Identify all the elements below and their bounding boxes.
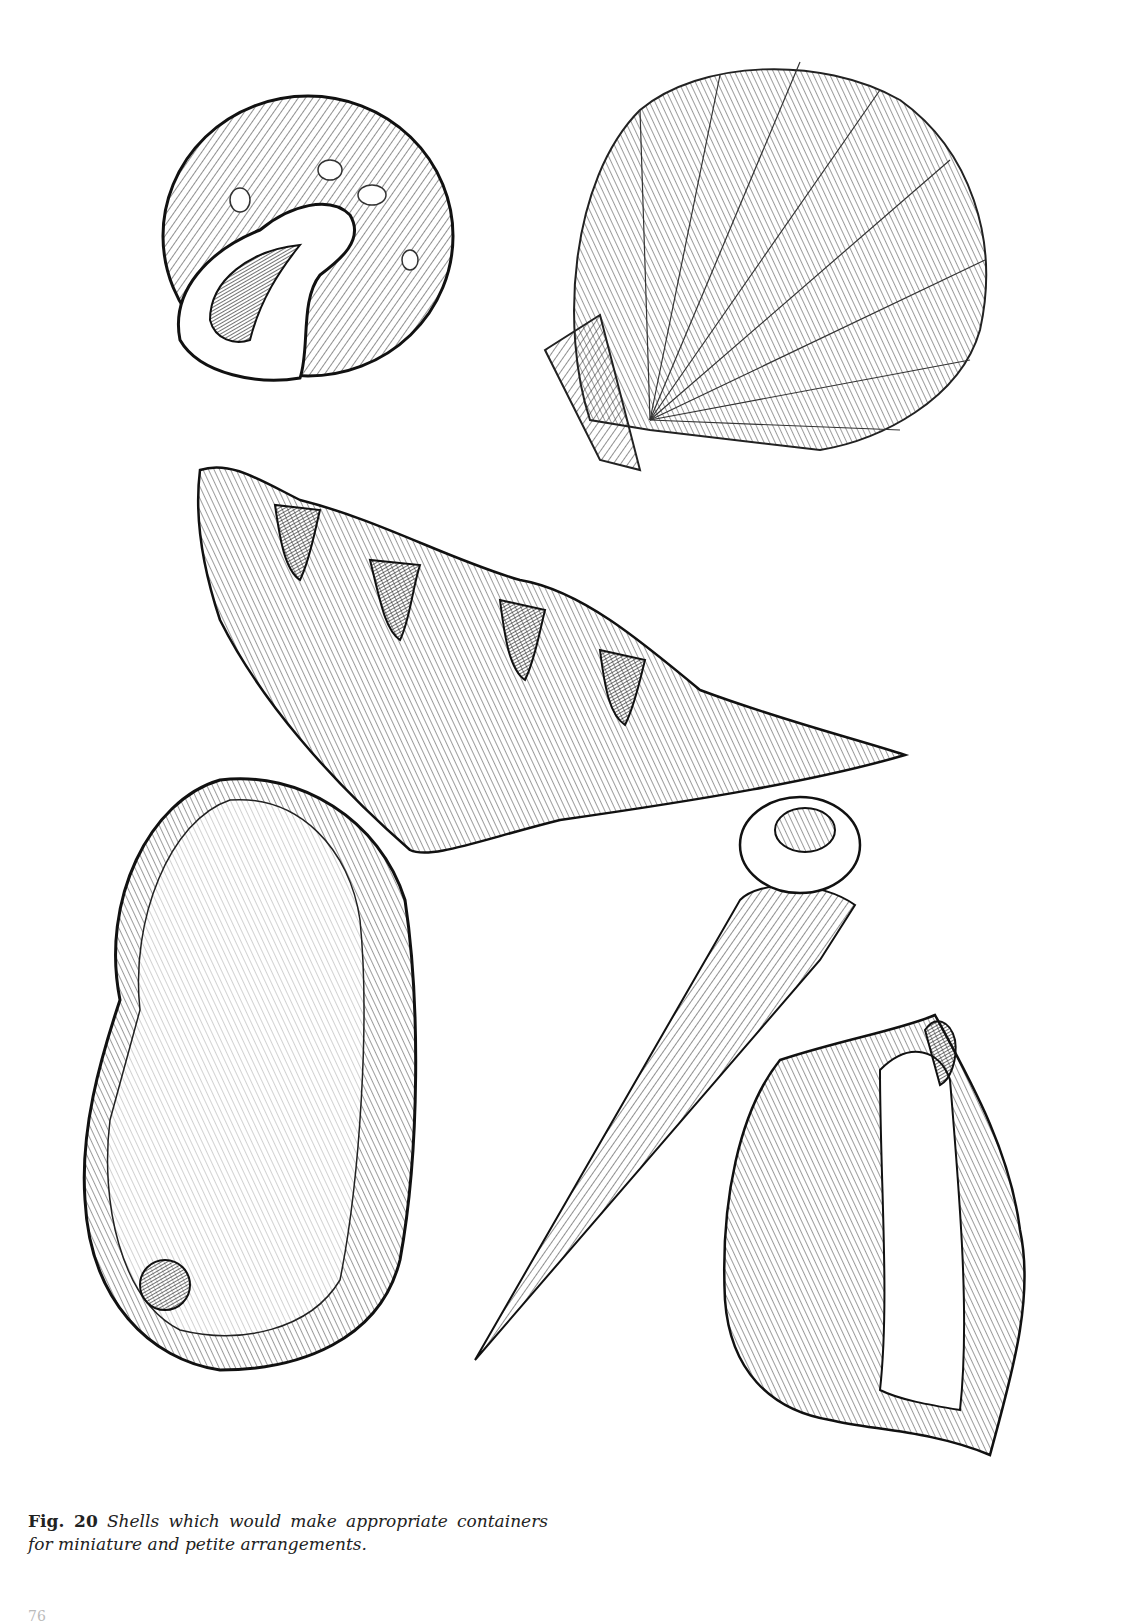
moon-snail-shell xyxy=(163,96,453,380)
page-number: 76 xyxy=(28,1608,46,1621)
shells-illustration xyxy=(0,0,1123,1621)
figure-label: Fig. 20 xyxy=(28,1511,98,1531)
abalone-shell xyxy=(84,779,415,1370)
figure-caption-text: Shells which would make appropriate cont… xyxy=(28,1511,548,1554)
scallop-shell xyxy=(545,62,986,470)
figure-caption: Fig. 20 Shells which would make appropri… xyxy=(28,1510,548,1556)
conch-shell xyxy=(724,1015,1024,1455)
